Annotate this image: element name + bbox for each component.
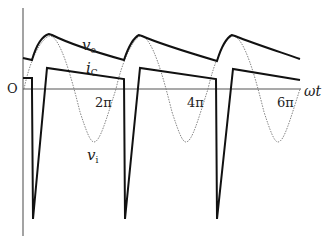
ic-label-sub: C <box>91 68 98 78</box>
vi-label: vi <box>87 148 98 165</box>
origin-label: O <box>7 82 18 95</box>
waveform-plot <box>0 0 327 246</box>
tick-6pi: 6π <box>277 96 294 109</box>
tick-4pi: 4π <box>187 96 204 109</box>
vo-label: vo <box>82 38 96 55</box>
vo-label-sub: o <box>90 45 95 55</box>
ic-label: iC <box>86 61 98 78</box>
vo-curve <box>23 34 300 61</box>
vi-label-sub: i <box>95 155 98 165</box>
x-axis-label: ωt <box>304 84 321 98</box>
tick-2pi: 2π <box>95 96 112 109</box>
